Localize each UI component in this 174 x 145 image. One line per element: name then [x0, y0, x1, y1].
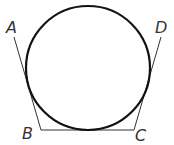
label-a: A — [5, 18, 17, 37]
geometry-diagram: A B C D — [0, 0, 174, 145]
segment-a-b-c-d — [14, 37, 161, 130]
label-d: D — [155, 18, 167, 37]
inscribed-circle — [26, 6, 150, 130]
label-b: B — [22, 124, 33, 143]
label-c: C — [135, 126, 147, 145]
